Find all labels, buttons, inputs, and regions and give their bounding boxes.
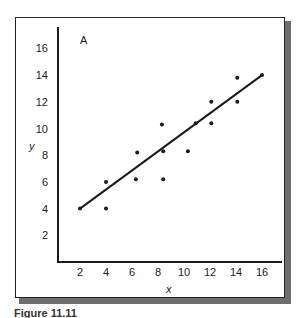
x-tick-label: 4 [103, 266, 109, 278]
y-tick-label: 2 [42, 229, 48, 241]
data-point [194, 121, 198, 125]
data-point [135, 151, 139, 155]
data-point [104, 207, 108, 211]
data-point [209, 121, 213, 125]
data-point [235, 76, 239, 80]
y-tick-labels: 246810121416 [36, 42, 48, 241]
data-point [260, 73, 264, 77]
data-point [235, 100, 239, 104]
x-tick-label: 12 [204, 266, 216, 278]
x-tick-label: 6 [129, 266, 135, 278]
regression-line [80, 75, 262, 209]
data-point [78, 207, 82, 211]
scatter-plot: 246810121416 246810121416 A y x [0, 0, 307, 318]
data-point [209, 100, 213, 104]
y-tick-label: 12 [36, 96, 48, 108]
panel-label: A [80, 34, 88, 46]
data-point [186, 149, 190, 153]
regression-line-segment [80, 75, 262, 209]
data-point [161, 149, 165, 153]
data-point [161, 177, 165, 181]
data-point [134, 177, 138, 181]
y-tick-label: 8 [42, 149, 48, 161]
y-tick-label: 4 [42, 203, 48, 215]
data-point [160, 122, 164, 126]
x-axis-label: x [165, 283, 172, 295]
x-tick-label: 14 [230, 266, 242, 278]
y-tick-label: 16 [36, 42, 48, 54]
x-tick-label: 2 [77, 266, 83, 278]
y-tick-label: 6 [42, 176, 48, 188]
x-tick-label: 10 [178, 266, 190, 278]
data-point [104, 180, 108, 184]
x-tick-label: 8 [155, 266, 161, 278]
y-axis-label: y [28, 140, 36, 152]
x-tick-label: 16 [256, 266, 268, 278]
figure-caption: Figure 11.11 [14, 307, 77, 318]
x-tick-labels: 246810121416 [77, 266, 268, 278]
y-tick-label: 10 [36, 123, 48, 135]
y-tick-label: 14 [36, 69, 48, 81]
